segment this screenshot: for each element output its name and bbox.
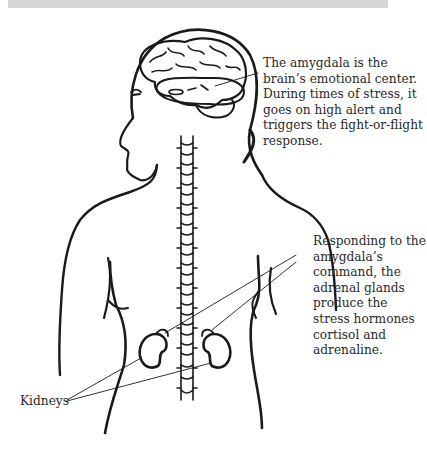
spine bbox=[177, 136, 197, 400]
amygdala-pointer-line bbox=[215, 73, 258, 86]
right-torso bbox=[251, 256, 263, 428]
right-arm-inner bbox=[270, 268, 276, 314]
face-profile bbox=[120, 118, 157, 180]
left-torso bbox=[105, 262, 126, 433]
right-kidney bbox=[204, 334, 231, 368]
kidneys-label: Kidneys bbox=[20, 394, 69, 410]
adrenal-pointer-line-right bbox=[212, 262, 296, 330]
kidney-pointer-line-left bbox=[67, 358, 141, 400]
adrenal-annotation: Responding to the amygdala’s command, th… bbox=[313, 234, 427, 359]
left-kidney bbox=[140, 334, 167, 368]
amygdala bbox=[169, 90, 183, 95]
brain-outline bbox=[140, 38, 246, 107]
cerebellum bbox=[196, 100, 234, 118]
brain-gyri bbox=[150, 46, 240, 72]
kidney-pointer-line-right bbox=[67, 363, 211, 401]
amygdala-annotation: The amygdala is the brain’s emotional ce… bbox=[263, 56, 427, 150]
